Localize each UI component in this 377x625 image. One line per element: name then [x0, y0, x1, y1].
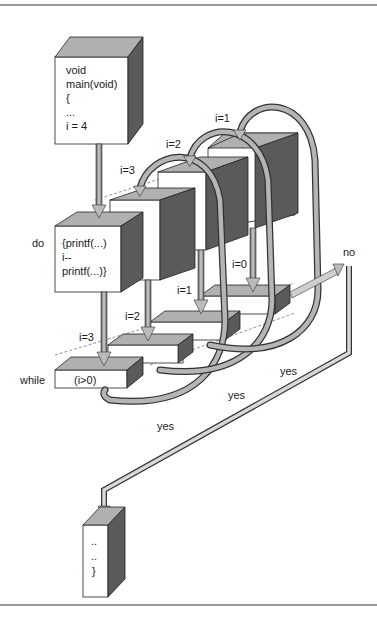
end-box: [83, 507, 125, 597]
yes-label-2: yes: [228, 389, 246, 401]
label-i2-cond: i=2: [125, 310, 140, 322]
end-line-1: ..: [91, 535, 97, 547]
end-line-2: ..: [91, 550, 97, 562]
no-label: no: [343, 246, 355, 258]
label-i1-cond: i=1: [177, 284, 192, 296]
do-line-2: i--: [62, 251, 72, 263]
label-i3-cond: i=3: [79, 331, 94, 343]
while-condition: (i>0): [74, 374, 96, 386]
label-i1-top: i=1: [215, 112, 230, 124]
do-line-1: {printf(...): [62, 237, 107, 249]
do-keyword: do: [32, 237, 44, 249]
while-keyword: while: [19, 374, 45, 386]
do-while-diagram: void main(void) { ... i = 4 do {printf(.…: [0, 0, 377, 625]
yes-label-3: yes: [280, 365, 298, 377]
while-slab: [55, 357, 143, 388]
end-line-3: }: [92, 565, 96, 577]
init-line-5: i = 4: [66, 120, 87, 132]
init-line-4: ...: [66, 106, 75, 118]
yes-label-1: yes: [157, 420, 175, 432]
label-i0-cond: i=0: [232, 258, 247, 270]
init-line-2: main(void): [66, 78, 117, 90]
init-line-1: void: [66, 64, 86, 76]
cond-slab-i0: [200, 285, 290, 314]
init-line-3: {: [66, 92, 70, 104]
do-line-3: printf(...)}: [62, 265, 107, 277]
label-i2-top: i=2: [166, 138, 181, 150]
label-i3-top: i=3: [120, 164, 135, 176]
